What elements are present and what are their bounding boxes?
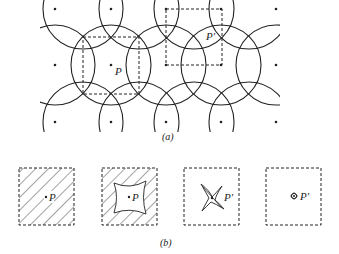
- box-1-label: P: [48, 191, 56, 203]
- lattice-dot: [165, 121, 168, 124]
- label-p-prime: P′: [205, 30, 216, 42]
- caption-a: (a): [162, 131, 174, 143]
- lattice-dot: [110, 121, 113, 124]
- lattice-dot: [54, 8, 57, 11]
- lattice-dot: [110, 8, 113, 11]
- lattice-dot: [275, 121, 278, 124]
- box-4-point: P′: [266, 168, 321, 225]
- panel-b: P P P′ P′ (b): [19, 168, 321, 249]
- figure-canvas: P P′ (a) P P P′: [0, 0, 339, 254]
- lattice-dot: [220, 121, 223, 124]
- label-p: P: [114, 65, 122, 77]
- lattice-dot: [54, 121, 57, 124]
- box-2-label: P: [131, 191, 139, 203]
- box-3-label: P′: [223, 191, 234, 203]
- lattice-dot: [54, 64, 57, 67]
- lattice-dot: [275, 64, 278, 67]
- panel-a: P P′ (a): [15, 0, 316, 162]
- box-2-hatched-with-hole: P: [102, 168, 157, 225]
- lattice-dot: [275, 8, 278, 11]
- caption-b: (b): [160, 237, 172, 249]
- box-1-fully-hatched: P: [19, 168, 74, 225]
- lattice-dot: [110, 64, 113, 67]
- box-3-star-shape: P′: [184, 168, 239, 225]
- box-4-label: P′: [299, 190, 310, 202]
